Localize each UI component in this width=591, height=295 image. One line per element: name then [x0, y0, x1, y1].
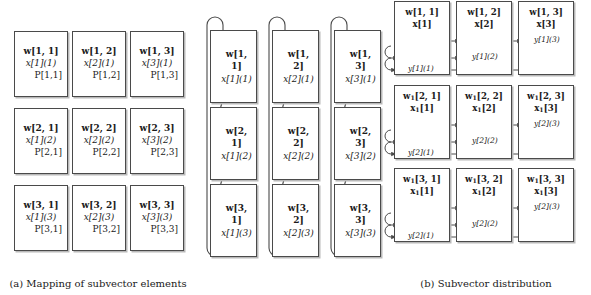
cell-w-label: w1[2, 3] [519, 91, 573, 103]
cell-c-r3c2: w1[3, 2] x1[2] [456, 168, 512, 242]
cell-w-label: w[1, 1] [220, 48, 253, 73]
cell-p-label: P[3,2] [78, 224, 120, 236]
cell-b-r2c2: w[2, 2] x[2](2) [272, 107, 319, 180]
output-label-r3c1: y[2](1) [408, 231, 434, 240]
cell-b-r1c2: w[1, 2] x[2](1) [272, 30, 319, 103]
cell-x-label: x1[2] [457, 103, 511, 115]
cell-a-r2c2: w[2, 2] x[2](2) P[2,2] [72, 108, 126, 174]
cell-w-label: w[3, 3] [136, 200, 178, 212]
cell-b-r3c2: w[3, 2] x[2](3) [272, 184, 319, 257]
cell-x-label: x[2](3) [282, 227, 315, 240]
cell-p-label: P[2,2] [78, 147, 120, 159]
cell-x-label: x[1](1) [220, 73, 253, 86]
cell-w-label: w[2, 2] [78, 123, 120, 135]
cell-b-r3c3: w[3, 3] x[3](3) [334, 184, 381, 257]
cell-a-r2c3: w[2, 3] x[3](2) P[2,3] [130, 108, 184, 174]
cell-w-label: w1[2, 2] [457, 91, 511, 103]
cell-a-r2c1: w[2, 1] x[1](2) P[2,1] [14, 108, 68, 174]
cell-a-r1c1: w[1, 1] x[1](1) P[1,1] [14, 31, 68, 97]
cell-c-r2c2: w1[2, 2] x1[2] [456, 85, 512, 159]
cell-w-label: w[2, 3] [136, 123, 178, 135]
cell-x-label: x[1](2) [20, 135, 62, 147]
cell-x-label: x[1](3) [220, 227, 253, 240]
cell-w-label: w[1, 2] [457, 7, 511, 19]
cell-w-label: w[2, 1] [20, 123, 62, 135]
cell-x-label: x[1] [395, 19, 449, 31]
cell-x-label: x1[3] [519, 186, 573, 198]
cell-w-label: w[1, 3] [519, 7, 573, 19]
cell-a-r3c2: w[3, 2] x[2](3) P[3,2] [72, 185, 126, 251]
output-label-r1c1: y[1](1) [408, 64, 434, 73]
output-label-r3c3: y[2](3) [534, 202, 560, 211]
cell-x-label: x1[1] [395, 186, 449, 198]
cell-p-label: P[3,3] [136, 224, 178, 236]
cell-p-label: P[1,3] [136, 70, 178, 82]
output-label-r2c3: y[2](3) [534, 119, 560, 128]
panel-c-accumulation: w[1, 1] x[1] w[1, 2] x[2] w[1, 3] x[3] y… [384, 0, 591, 295]
cell-a-r3c1: w[3, 1] x[1](3) P[3,1] [14, 185, 68, 251]
cell-x-label: x[1](1) [20, 58, 62, 70]
cell-w-label: w[1, 3] [344, 48, 377, 73]
cell-p-label: P[3,1] [20, 224, 62, 236]
cell-p-label: P[1,2] [78, 70, 120, 82]
panel-a-mapping: w[1, 1] x[1](1) P[1,1] w[1, 2] x[2](1) P… [0, 0, 196, 295]
output-label-r3c2: y[2](2) [472, 219, 498, 228]
cell-x-label: x[3](2) [344, 150, 377, 163]
cell-x-label: x[3](3) [344, 227, 377, 240]
output-label-r2c2: y[2](2) [472, 136, 498, 145]
panel-b-distribution: w[1, 1] x[1](1) w[1, 2] x[2](1) w[1, 3] … [196, 0, 384, 295]
cell-p-label: P[1,1] [20, 70, 62, 82]
cell-c-r1c2: w[1, 2] x[2] [456, 1, 512, 75]
cell-w-label: w[2, 3] [344, 125, 377, 150]
cell-x-label: x[2](2) [78, 135, 120, 147]
cell-b-r1c3: w[1, 3] x[3](1) [334, 30, 381, 103]
cell-w-label: w[1, 2] [282, 48, 315, 73]
cell-x-label: x[3](1) [136, 58, 178, 70]
cell-b-r3c1: w[3, 1] x[1](3) [210, 184, 257, 257]
cell-w-label: w[3, 1] [20, 200, 62, 212]
cell-p-label: P[2,1] [20, 147, 62, 159]
cell-x-label: x[1](3) [20, 212, 62, 224]
cell-w-label: w[2, 1] [220, 125, 253, 150]
cell-b-r1c1: w[1, 1] x[1](1) [210, 30, 257, 103]
cell-w-label: w1[3, 3] [519, 174, 573, 186]
cell-x-label: x[2](3) [78, 212, 120, 224]
cell-w-label: w[1, 1] [20, 46, 62, 58]
output-label-r1c2: y[1](2) [472, 52, 498, 61]
cell-w-label: w[3, 2] [282, 202, 315, 227]
cell-x-label: x[3](3) [136, 212, 178, 224]
output-label-r1c3: y[1](3) [534, 35, 560, 44]
cell-a-r3c3: w[3, 3] x[3](3) P[3,3] [130, 185, 184, 251]
cell-x-label: x[3](2) [136, 135, 178, 147]
cell-x-label: x[1](2) [220, 150, 253, 163]
cell-x-label: x[2](1) [282, 73, 315, 86]
cell-w-label: w1[3, 2] [457, 174, 511, 186]
output-label-r2c1: y[2](1) [408, 148, 434, 157]
cell-x-label: x1[1] [395, 103, 449, 115]
cell-w-label: w1[2, 1] [395, 91, 449, 103]
cell-a-r1c3: w[1, 3] x[3](1) P[1,3] [130, 31, 184, 97]
cell-x-label: x[3](1) [344, 73, 377, 86]
cell-x-label: x1[2] [457, 186, 511, 198]
cell-w-label: w[3, 3] [344, 202, 377, 227]
cell-w-label: w[3, 1] [220, 202, 253, 227]
cell-w-label: w[1, 3] [136, 46, 178, 58]
cell-w-label: w[2, 2] [282, 125, 315, 150]
cell-x-label: x1[3] [519, 103, 573, 115]
cell-b-r2c3: w[2, 3] x[3](2) [334, 107, 381, 180]
cell-p-label: P[2,3] [136, 147, 178, 159]
cell-w-label: w1[3, 1] [395, 174, 449, 186]
cell-b-r2c1: w[2, 1] x[1](2) [210, 107, 257, 180]
caption-panel-a: (a) Mapping of subvector elements [0, 278, 196, 289]
cell-x-label: x[3] [519, 19, 573, 31]
cell-a-r1c2: w[1, 2] x[2](1) P[1,2] [72, 31, 126, 97]
cell-x-label: x[2](2) [282, 150, 315, 163]
cell-x-label: x[2](1) [78, 58, 120, 70]
cell-w-label: w[1, 1] [395, 7, 449, 19]
cell-w-label: w[3, 2] [78, 200, 120, 212]
cell-x-label: x[2] [457, 19, 511, 31]
cell-w-label: w[1, 2] [78, 46, 120, 58]
